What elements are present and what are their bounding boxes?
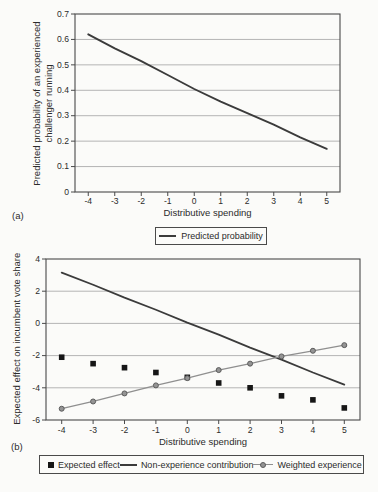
series-weighted-experience — [59, 343, 347, 412]
x-tick-label: -3 — [89, 425, 97, 435]
non-experience-line-swatch — [120, 464, 137, 466]
y-tick-label: 4 — [35, 254, 40, 264]
panel-a: 00.10.20.30.40.50.60.7-4-3-2-1012345 Pre… — [0, 0, 378, 246]
figure: 00.10.20.30.40.50.60.7-4-3-2-1012345 Pre… — [0, 0, 378, 492]
x-tick-label: -4 — [58, 425, 66, 435]
x-tick-label: 1 — [216, 425, 221, 435]
x-tick-label: -2 — [137, 196, 145, 206]
x-tick-label: 0 — [192, 196, 197, 206]
x-tick-label: -1 — [152, 425, 160, 435]
chart-b-legend: Expected effect Non-experience contribut… — [39, 455, 364, 474]
y-tick-label: 0.6 — [57, 34, 69, 44]
y-tick-label: -2 — [32, 350, 40, 360]
y-tick-label: 0 — [64, 187, 69, 197]
axis-ticks — [42, 259, 344, 424]
y-tick-label: 0 — [35, 318, 40, 328]
chart-a-y-axis-title-line1: Predicted probability of an experienced — [31, 4, 43, 204]
chart-b-y-axis-title: Expected effect on incumbent vote share — [11, 229, 23, 449]
x-tick-label: 5 — [324, 196, 329, 206]
legend-label-predicted-probability: Predicted probability — [181, 231, 263, 241]
x-tick-label: -3 — [111, 196, 119, 206]
y-tick-label: -6 — [32, 415, 40, 425]
gridlines — [75, 39, 340, 166]
panel-b: -6-4-2024-4-3-2-1012345 Expected effect … — [0, 246, 378, 492]
y-tick-label: 0.4 — [57, 85, 69, 95]
x-tick-label: 0 — [185, 425, 190, 435]
axis-ticks — [71, 14, 327, 196]
x-tick-label: 2 — [245, 196, 250, 206]
tick-labels: 00.10.20.30.40.50.60.7-4-3-2-1012345 — [57, 9, 329, 206]
x-tick-label: -4 — [84, 196, 92, 206]
y-tick-label: 0.3 — [57, 110, 69, 120]
panel-a-label: (a) — [12, 210, 24, 221]
series-predicted-probability — [88, 34, 327, 148]
legend-item-weighted-experience: Weighted experience — [253, 460, 361, 470]
x-tick-label: 5 — [342, 425, 347, 435]
panel-b-label: (b) — [11, 441, 23, 452]
page: { "colors": { "frame": "#4a4a4a", "grid"… — [0, 0, 378, 492]
chart-a-legend: Predicted probability — [155, 227, 267, 245]
x-tick-label: 4 — [298, 196, 303, 206]
x-tick-label: -1 — [164, 196, 172, 206]
chart-a-x-axis-title: Distributive spending — [75, 207, 340, 218]
legend-label-weighted-experience: Weighted experience — [277, 460, 361, 470]
tick-labels: -6-4-2024-4-3-2-1012345 — [32, 254, 347, 435]
series-expected-effect — [59, 354, 347, 410]
weighted-experience-dot-swatch — [260, 462, 266, 468]
x-tick-label: 3 — [279, 425, 284, 435]
x-tick-label: 1 — [218, 196, 223, 206]
y-tick-label: 2 — [35, 286, 40, 296]
y-tick-label: 0.2 — [57, 136, 69, 146]
legend-item-non-experience-contribution: Non-experience contribution — [120, 460, 254, 470]
series-non-experience-contribution — [62, 273, 345, 385]
predicted-probability-line-swatch — [159, 235, 176, 237]
x-tick-label: -2 — [121, 425, 129, 435]
x-tick-label: 2 — [248, 425, 253, 435]
plot-frame — [46, 259, 360, 420]
legend-item-expected-effect: Expected effect — [48, 460, 120, 470]
y-tick-label: 0.5 — [57, 60, 69, 70]
chart-a-y-axis-title-line2: challenger running — [42, 4, 54, 204]
y-tick-label: 0.1 — [57, 161, 69, 171]
y-tick-label: -4 — [32, 383, 40, 393]
x-tick-label: 3 — [271, 196, 276, 206]
plot-frame — [75, 14, 340, 192]
weighted-experience-line-marker-swatch — [253, 461, 273, 469]
chart-b-x-axis-title: Distributive spending — [46, 436, 360, 447]
chart-a-y-axis-title: Predicted probability of an experienced … — [31, 4, 54, 204]
x-tick-label: 4 — [311, 425, 316, 435]
expected-effect-square-swatch — [48, 462, 54, 468]
y-tick-label: 0.7 — [57, 9, 69, 19]
legend-label-expected-effect: Expected effect — [58, 460, 120, 470]
legend-label-non-experience-contribution: Non-experience contribution — [141, 460, 254, 470]
